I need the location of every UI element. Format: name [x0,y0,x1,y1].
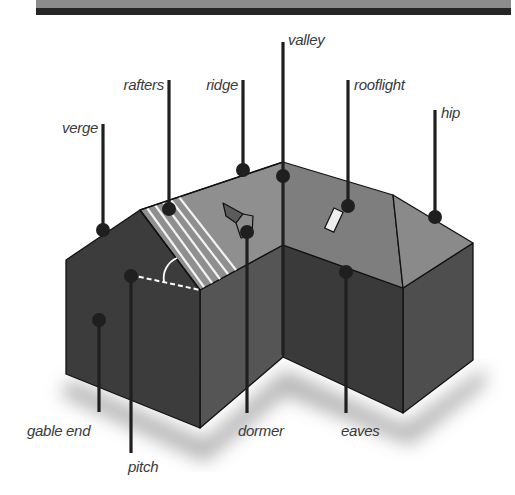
header-band-top [36,0,511,8]
label-rafters: rafters [124,76,165,93]
label-valley: valley [288,31,326,48]
label-dormer: dormer [238,422,285,439]
label-rooflight: rooflight [354,76,406,93]
label-gable-end: gable end [27,422,91,439]
header-band-bottom [36,8,511,15]
label-eaves: eaves [341,422,380,439]
pointer-ridge [236,80,250,177]
pointer-hip [428,110,442,224]
label-hip: hip [441,104,460,121]
pointer-verge [96,124,110,237]
label-pitch: pitch [127,458,158,475]
roof-anatomy-diagram: verge rafters ridge valley rooflight hip… [0,0,515,495]
label-ridge: ridge [206,76,238,93]
label-verge: verge [62,119,98,136]
header-band [36,0,511,15]
pointer-rafters [162,80,176,216]
